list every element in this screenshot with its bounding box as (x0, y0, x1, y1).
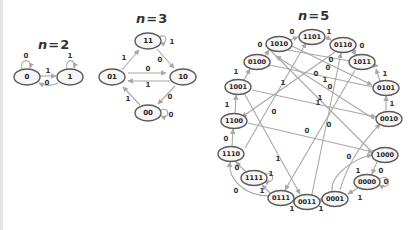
svg-text:1100: 1100 (225, 117, 244, 125)
svg-text:0: 0 (25, 73, 30, 81)
edge-label: 0 (314, 70, 319, 78)
graph-title-n5: n=5 (298, 8, 329, 23)
svg-text:0011: 0011 (298, 198, 317, 206)
svg-text:0010: 0010 (380, 115, 399, 123)
state-node: 1001 (225, 80, 251, 95)
svg-text:1010: 1010 (270, 40, 289, 48)
edge-label: 1 (126, 95, 131, 103)
state-node: 0001 (322, 192, 348, 207)
edge-label: 0 (272, 108, 277, 116)
edge-label: 0 (235, 164, 240, 172)
state-node: 1110 (218, 147, 244, 162)
edge-label: 0 (146, 65, 151, 73)
edge-label: 1 (68, 52, 73, 60)
svg-text:1000: 1000 (376, 151, 395, 159)
state-node: 1100 (221, 114, 247, 129)
edge-label: 1 (276, 155, 281, 163)
svg-text:0001: 0001 (326, 195, 345, 203)
graph-title-n2: n=2 (38, 37, 69, 52)
edge-label: 1 (225, 101, 230, 109)
edge-label: 0 (158, 56, 163, 64)
edge-label: 1 (290, 205, 295, 213)
edge-label: 1 (319, 205, 324, 213)
state-node: 11 (135, 33, 161, 49)
state-node: 0011 (294, 195, 320, 210)
state-node: 1101 (299, 30, 325, 45)
edge-label: 1 (390, 100, 395, 108)
edge-label: 0 (326, 64, 331, 72)
edge-label: 0 (290, 28, 295, 36)
edge-label: 0 (327, 121, 332, 129)
edge-label: 1 (122, 54, 127, 62)
edge-label: 0 (45, 79, 50, 87)
edge-label: 1 (356, 167, 361, 175)
svg-text:0101: 0101 (377, 84, 396, 92)
svg-text:0111: 0111 (272, 194, 291, 202)
edge-label: 0 (168, 93, 173, 101)
state-node: 0110 (330, 38, 356, 53)
edge-label: 1 (358, 194, 363, 202)
edge-label: 0 (258, 41, 263, 49)
edge-label: 1 (170, 38, 175, 46)
svg-text:0100: 0100 (248, 58, 267, 66)
edge-label: 0 (384, 178, 389, 186)
edge-label: 0 (224, 135, 229, 143)
de-bruijn-diagrams: n=2 0 1 0 1 0 1 n=3 1 1 0 0 1 0 (0, 0, 418, 230)
edge-label: 0 (169, 111, 174, 119)
svg-text:1101: 1101 (303, 33, 322, 41)
state-node: 1010 (266, 37, 292, 52)
edge-label: 1 (327, 28, 332, 36)
svg-text:1011: 1011 (353, 58, 372, 66)
state-node: 1000 (372, 148, 398, 163)
edge-label: 1 (383, 70, 388, 78)
edge-label: 1 (260, 187, 265, 195)
graph-n5: n=5 0 1 0 0 1 1 1 1 0 0 1 0 1 1 1 0 1 (218, 8, 402, 213)
edge-label: 1 (269, 170, 274, 178)
edge-label: 0 (379, 167, 384, 175)
svg-text:1001: 1001 (229, 83, 248, 91)
svg-text:1110: 1110 (222, 150, 241, 158)
edge-label: 0 (234, 187, 239, 195)
state-node: 1 (57, 69, 83, 85)
state-node: 10 (170, 69, 196, 85)
edge-label: 1 (46, 67, 51, 75)
edge-label: 0 (347, 153, 352, 161)
state-node: 1011 (349, 55, 375, 70)
state-node: 1111 (241, 171, 267, 186)
state-node: 00 (135, 105, 161, 121)
svg-text:0110: 0110 (334, 41, 353, 49)
state-node: 0000 (354, 175, 380, 190)
svg-text:00: 00 (143, 109, 153, 117)
svg-text:11: 11 (143, 37, 153, 45)
graph-n3: n=3 1 1 0 0 1 0 1 0 11 01 10 00 (99, 11, 196, 121)
state-node: 0010 (376, 112, 402, 127)
edge-label: 0 (305, 127, 310, 135)
edge-label: 1 (234, 68, 239, 76)
edge-label: 0 (24, 52, 29, 60)
state-node: 0 (14, 69, 40, 85)
graph-title-n3: n=3 (136, 11, 167, 26)
edge-label: 1 (146, 81, 151, 89)
svg-text:01: 01 (107, 73, 117, 81)
svg-text:1: 1 (68, 73, 73, 81)
svg-text:1111: 1111 (245, 174, 264, 182)
edge-label: 0 (329, 56, 334, 64)
edge-label: 0 (360, 42, 365, 50)
graph-n2: n=2 0 1 0 1 0 1 (14, 37, 83, 87)
edge-label: 1 (281, 79, 286, 87)
state-node: 0100 (244, 55, 270, 70)
state-node: 01 (99, 69, 125, 85)
edge-label: 1 (316, 99, 321, 107)
svg-text:10: 10 (178, 73, 188, 81)
state-node: 0111 (268, 191, 294, 206)
svg-text:0000: 0000 (358, 178, 377, 186)
state-node: 0101 (373, 81, 399, 96)
